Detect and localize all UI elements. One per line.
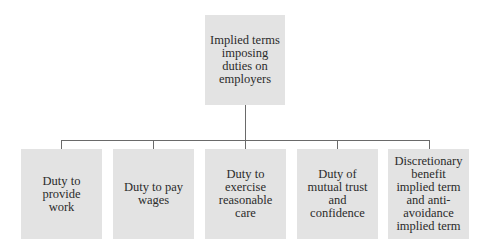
child-node-label: Duty to pay wages [121,181,187,207]
connector-root-stem [245,105,246,140]
child-node-duty-to-pay-wages: Duty to pay wages [113,149,194,239]
connector-child-4 [337,140,338,149]
child-node-duty-to-exercise-reasonable-care: Duty to exercise reasonable care [205,149,286,239]
root-node: Implied terms imposing duties on employe… [205,15,285,105]
child-node-label: Duty to exercise reasonable care [213,168,279,220]
child-node-discretionary-benefit: Discretionary benefit implied term and a… [388,149,469,239]
child-node-duty-of-mutual-trust: Duty of mutual trust and confidence [297,149,378,239]
connector-child-3 [245,140,246,149]
connector-child-1 [61,140,62,149]
child-node-duty-to-provide-work: Duty to provide work [21,149,102,239]
child-node-label: Duty to provide work [34,175,90,214]
child-node-label: Discretionary benefit implied term and a… [391,155,466,233]
root-node-label: Implied terms imposing duties on employe… [208,34,282,86]
child-node-label: Duty of mutual trust and confidence [307,168,369,220]
connector-child-2 [153,140,154,149]
connector-child-5 [429,140,430,149]
